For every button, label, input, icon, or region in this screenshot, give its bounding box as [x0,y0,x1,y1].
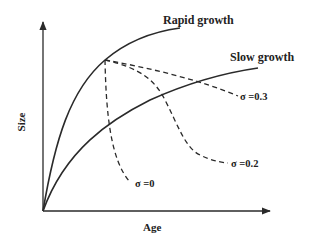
sigma-0-curve [105,60,130,182]
growth-diagram: Rapid growth Slow growth σ =0.3 σ =0.2 σ… [0,0,315,240]
x-axis-label: Age [143,221,161,233]
sigma-0-label: σ =0 [135,178,155,189]
sigma-02-curve [105,60,228,163]
y-axis-label: Size [15,112,27,131]
sigma-03-label: σ =0.3 [240,91,267,102]
slow-growth-curve [43,68,258,211]
sigma-02-label: σ =0.2 [231,158,258,169]
rapid-growth-curve [43,28,180,211]
rapid-growth-label: Rapid growth [163,13,234,27]
slow-growth-label: Slow growth [230,50,294,64]
